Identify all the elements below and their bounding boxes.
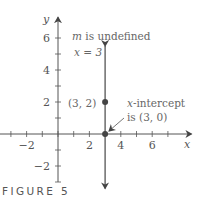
point-label-3-2: (3, 2) (68, 97, 96, 109)
figure-plot: −2246−2246 x y m is undefined x = 3 (3, … (0, 0, 198, 201)
annotation-undefined-slope: m is undefined (72, 30, 151, 42)
y-axis-label: y (42, 13, 50, 26)
x-tick-label: 6 (149, 139, 156, 152)
annotation-intercept-text: -intercept (133, 97, 186, 109)
figure-caption: FIGURE 5 (2, 185, 70, 197)
y-tick-label: 4 (43, 64, 50, 77)
y-tick-label: 6 (43, 32, 50, 45)
annotation-intercept-value: is (3, 0) (127, 111, 167, 123)
annotation-x-intercept: x-intercept (127, 97, 186, 109)
data-point (102, 99, 108, 105)
data-point (102, 131, 108, 137)
y-tick-label: −2 (34, 160, 50, 173)
annotation-m: m (72, 30, 82, 42)
intercept-pointer-arrow (109, 118, 124, 131)
x-tick-label: −2 (18, 139, 34, 152)
annotation-undefined-text: is undefined (82, 30, 151, 42)
x-tick-label: 4 (117, 139, 124, 152)
x-tick-label: 2 (86, 139, 93, 152)
x-axis-label: x (184, 138, 191, 151)
y-tick-label: 2 (43, 96, 50, 109)
annotation-line-equation: x = 3 (74, 46, 102, 58)
